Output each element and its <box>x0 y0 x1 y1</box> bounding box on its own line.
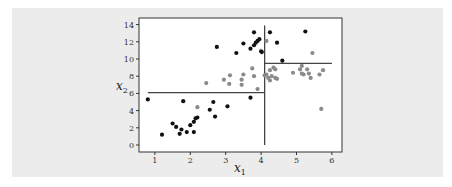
data-point <box>309 76 313 80</box>
data-point <box>240 83 244 87</box>
x-tick-label: 5 <box>294 156 299 165</box>
data-point <box>208 108 212 112</box>
data-point <box>248 96 252 100</box>
data-point <box>300 64 304 68</box>
data-point <box>307 72 311 76</box>
y-tick-label: 2 <box>129 124 134 133</box>
x-tick-label: 3 <box>223 156 228 165</box>
data-point <box>280 59 284 63</box>
scatter-plot: 123456 02468101214 x1 x2 <box>0 0 452 187</box>
data-point <box>234 51 238 55</box>
data-point <box>195 115 199 119</box>
data-point <box>321 68 325 72</box>
data-point <box>171 121 175 125</box>
data-point <box>310 51 314 55</box>
y-tick-label: 6 <box>129 89 134 98</box>
y-tick-label: 8 <box>129 72 134 81</box>
data-point <box>273 67 277 71</box>
data-point <box>268 78 272 82</box>
data-point <box>252 74 256 78</box>
data-point <box>275 77 279 81</box>
data-point <box>195 105 199 109</box>
data-point <box>174 125 178 129</box>
data-point <box>305 67 309 71</box>
data-point <box>178 132 182 136</box>
x-tick-label: 1 <box>152 156 157 165</box>
data-point <box>146 97 150 101</box>
x-tick-label: 2 <box>188 156 193 165</box>
data-point <box>241 72 245 76</box>
data-point <box>188 123 192 127</box>
data-point <box>255 87 259 91</box>
data-point <box>192 130 196 134</box>
x-axis-ticks: 123456 <box>152 152 334 165</box>
data-point <box>215 45 219 49</box>
data-point <box>211 100 215 104</box>
data-point <box>225 104 229 108</box>
y-axis-label: x2 <box>116 79 128 95</box>
y-tick-label: 10 <box>124 55 134 64</box>
data-point <box>240 78 244 82</box>
data-point <box>185 130 189 134</box>
y-tick-label: 12 <box>124 38 134 47</box>
data-point <box>250 66 254 70</box>
data-point <box>228 73 232 77</box>
data-point <box>248 47 252 51</box>
data-point <box>222 78 226 82</box>
data-point <box>275 41 279 45</box>
data-point <box>317 72 321 76</box>
data-point <box>241 41 245 45</box>
y-tick-label: 4 <box>129 107 134 116</box>
data-point <box>252 30 256 34</box>
x-tick-label: 4 <box>259 156 264 165</box>
y-tick-label: 0 <box>129 141 134 150</box>
x-tick-label: 6 <box>329 156 334 165</box>
data-point <box>268 68 272 72</box>
data-point <box>268 30 272 34</box>
data-point <box>227 82 231 86</box>
data-point <box>264 39 268 43</box>
data-point <box>260 50 264 54</box>
data-point <box>303 29 307 33</box>
data-point <box>213 115 217 119</box>
data-point <box>204 81 208 85</box>
x-axis-label: x1 <box>234 161 246 177</box>
data-point <box>257 37 261 41</box>
data-point <box>291 71 295 75</box>
data-point <box>181 99 185 103</box>
data-point <box>319 107 323 111</box>
y-tick-label: 14 <box>124 21 134 30</box>
data-point <box>160 133 164 137</box>
data-point <box>301 72 305 76</box>
data-point <box>179 127 183 131</box>
